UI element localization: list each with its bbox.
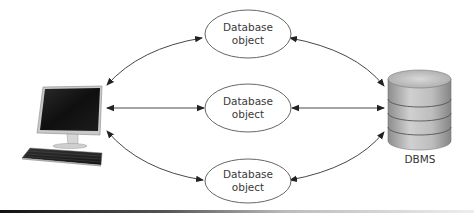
- edge-client-object-1: [107, 38, 202, 85]
- edge-object-3-dbms: [290, 132, 384, 180]
- database-object-2: Database object: [205, 84, 291, 132]
- database-object-3-line2: object: [223, 181, 273, 194]
- database-object-3-line1: Database: [223, 168, 273, 181]
- database-object-2-line2: object: [223, 108, 273, 121]
- bottom-divider: [0, 210, 474, 213]
- database-object-1: Database object: [205, 10, 291, 58]
- dbms-label: DBMS: [396, 153, 444, 165]
- diagram-canvas: Database object Database object Database…: [0, 0, 474, 214]
- database-object-1-line2: object: [223, 34, 273, 47]
- edge-client-object-3: [107, 131, 203, 180]
- desktop-computer-icon: [22, 86, 102, 167]
- database-object-1-line1: Database: [223, 21, 273, 34]
- database-cylinder-icon: [388, 70, 451, 150]
- database-object-3: Database object: [205, 157, 291, 205]
- edge-object-1-dbms: [290, 38, 384, 86]
- database-object-2-line1: Database: [223, 95, 273, 108]
